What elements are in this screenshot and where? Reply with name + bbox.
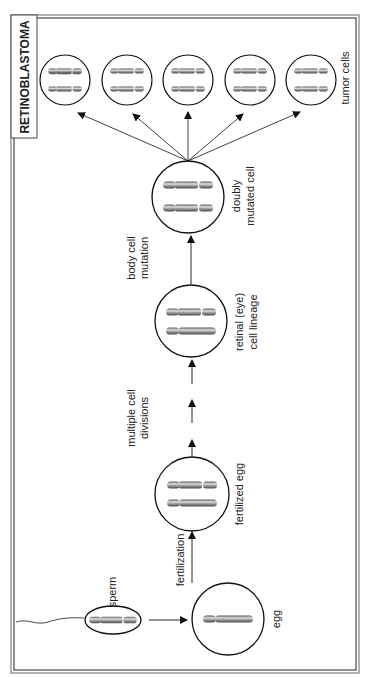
tumor-arrows: [78, 112, 300, 161]
body-cell-mutation-label-1: body cell: [125, 236, 137, 279]
tumor-cell-5: [286, 55, 336, 105]
sperm-cell: [85, 606, 141, 634]
sperm-label: sperm: [106, 577, 118, 608]
fertilized-egg-cell: [155, 457, 229, 531]
tumor-cell-1: [40, 55, 90, 105]
retinal-label-1: retinal (eye): [233, 293, 245, 351]
egg-label: egg: [270, 610, 282, 628]
doubly-mutated-cell: [152, 161, 224, 233]
doubly-mutated-label-2: mutated cell: [244, 166, 256, 225]
multiple-cell-divisions-label-1: multiple cell: [125, 389, 137, 446]
body-cell-mutation-label-2: mutation: [138, 237, 150, 279]
fertilization-label: fertilization: [174, 534, 186, 587]
retinoblastoma-diagram: RETINOBLASTOMA sperm egg fertilization f…: [0, 0, 365, 677]
egg-cell: [192, 583, 264, 655]
tumor-cell-2: [102, 55, 152, 105]
title-box: RETINOBLASTOMA: [11, 15, 37, 138]
sperm-tail: [16, 618, 84, 623]
retinal-label-2: cell lineage: [247, 294, 259, 349]
multiple-cell-divisions-label-2: divisions: [138, 396, 150, 439]
tumor-cells-label: tumor cells: [339, 51, 351, 105]
tumor-cell-4: [225, 55, 275, 105]
doubly-mutated-label-1: doubly: [230, 179, 242, 212]
fertilized-egg-label: fertilized egg: [233, 463, 245, 525]
page-title: RETINOBLASTOMA: [18, 20, 32, 133]
retinal-cell: [155, 285, 227, 357]
tumor-cell-3: [163, 55, 213, 105]
